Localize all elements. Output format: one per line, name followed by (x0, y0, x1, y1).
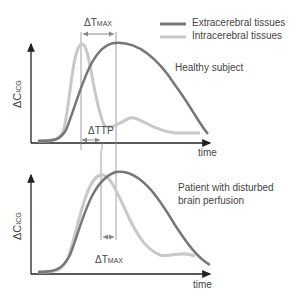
bottom-panel-title-line1: Patient with disturbed (178, 182, 274, 193)
top-panel-title: Healthy subject (175, 62, 243, 73)
top-delta-ttp-label: ΔTTP (88, 125, 114, 136)
top-x-axis-label: time (198, 147, 217, 158)
legend-extracerebral-label: Extracerebral tissues (192, 17, 285, 28)
bottom-x-axis-label: time (193, 279, 212, 290)
top-y-axis-label: ΔCICG (11, 80, 23, 108)
top-delta-tmax-label: ΔTMAX (84, 17, 112, 28)
diagram-canvas (0, 0, 298, 298)
bottom-delta-tmax-label: ΔTMAX (95, 254, 123, 265)
legend-intracerebral-label: Intracerebral tissues (192, 30, 282, 41)
top-intracerebral-curve (38, 44, 200, 141)
bottom-panel-title-line2: brain perfusion (178, 195, 244, 206)
bottom-y-axis-label: ΔCICG (11, 212, 23, 240)
